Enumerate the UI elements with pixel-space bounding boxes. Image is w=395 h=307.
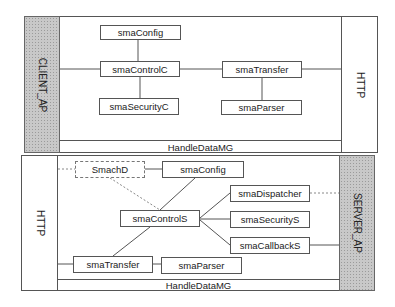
link-control-transfer-s (113, 227, 150, 256)
link-control-callback-s (200, 220, 230, 245)
connector-lines (0, 0, 395, 307)
link-control-dispatcher-s (200, 193, 230, 218)
link-control-config-s (160, 178, 195, 210)
link-smachd-control-s (110, 178, 160, 210)
